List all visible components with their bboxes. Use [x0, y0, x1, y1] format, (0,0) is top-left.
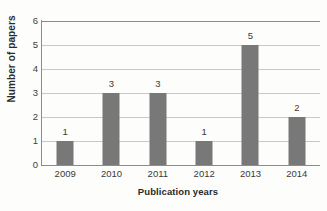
y-axis-tick-labels: 0123456 [4, 21, 38, 165]
x-tick-label: 2013 [227, 168, 273, 179]
y-tick-label: 3 [10, 87, 38, 98]
bar-value-label: 1 [63, 126, 68, 137]
y-tick-label: 2 [10, 111, 38, 122]
y-tick-label: 1 [10, 135, 38, 146]
bar-value-label: 3 [155, 78, 160, 89]
bar-group: 3 [135, 21, 181, 165]
bar [103, 93, 120, 165]
y-tick-label: 6 [10, 15, 38, 26]
x-tick-label: 2012 [181, 168, 227, 179]
bar [196, 141, 213, 165]
x-tick-label: 2010 [88, 168, 134, 179]
bar [288, 117, 305, 165]
y-tick-label: 4 [10, 63, 38, 74]
bar-value-label: 3 [109, 78, 114, 89]
bar-value-label: 1 [202, 126, 207, 137]
bar-value-label: 2 [294, 102, 299, 113]
x-tick-label: 2009 [42, 168, 88, 179]
x-axis-tick-labels: 200920102011201220132014 [42, 168, 320, 182]
bar-value-label: 5 [248, 30, 253, 41]
bars-layer: 133152 [42, 21, 320, 165]
x-axis-title: Publication years [42, 186, 314, 197]
y-tick-label: 5 [10, 39, 38, 50]
bar-chart: Number of papers 0123456 133152 20092010… [0, 0, 327, 211]
x-tick-label: 2011 [135, 168, 181, 179]
bar-group: 1 [42, 21, 88, 165]
bar [242, 45, 259, 165]
bar-group: 2 [274, 21, 320, 165]
gridline-0 [42, 165, 320, 166]
x-tick-label: 2014 [274, 168, 320, 179]
bar [149, 93, 166, 165]
bar [57, 141, 74, 165]
y-tick-label: 0 [10, 159, 38, 170]
bar-group: 3 [88, 21, 134, 165]
bar-group: 1 [181, 21, 227, 165]
bar-group: 5 [227, 21, 273, 165]
